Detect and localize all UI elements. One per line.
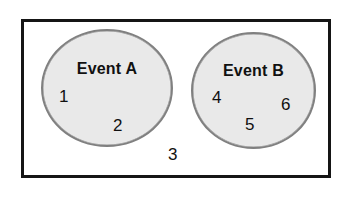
event-b-label: Event B — [191, 62, 316, 80]
venn-diagram: Event A Event B 1 2 3 4 5 6 — [0, 0, 345, 197]
outcome-4: 4 — [212, 89, 221, 106]
outcome-5: 5 — [245, 116, 254, 133]
outcome-3: 3 — [168, 146, 177, 163]
outcome-6: 6 — [281, 96, 290, 113]
outcome-2: 2 — [113, 117, 122, 134]
outcome-1: 1 — [59, 88, 68, 105]
event-a-label: Event A — [41, 60, 173, 78]
